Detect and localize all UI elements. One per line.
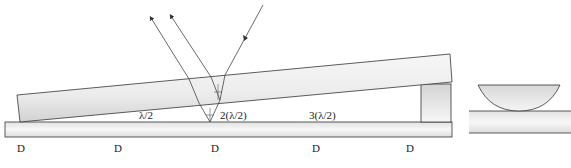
thickness-label-3: 3(λ/2) — [309, 110, 336, 121]
interference-diagram — [0, 0, 571, 168]
reflected-ray-top — [171, 16, 211, 77]
spacing-label-5: D — [406, 143, 414, 154]
thickness-label-1: λ/2 — [139, 110, 153, 121]
spacer-block — [421, 84, 451, 122]
spacing-label-3: D — [211, 143, 219, 154]
plano-convex-lens — [478, 85, 560, 111]
thickness-label-2: 2(λ/2) — [220, 110, 247, 121]
spacing-label-4: D — [312, 143, 320, 154]
spacing-label-1: D — [17, 143, 25, 154]
spacing-label-2: D — [114, 143, 122, 154]
reflected-ray-bottom-gap — [199, 103, 210, 122]
bottom-glass-plate — [5, 122, 452, 137]
newton-flat-plate — [469, 111, 571, 133]
reflected-ray-bottom — [151, 18, 189, 79]
